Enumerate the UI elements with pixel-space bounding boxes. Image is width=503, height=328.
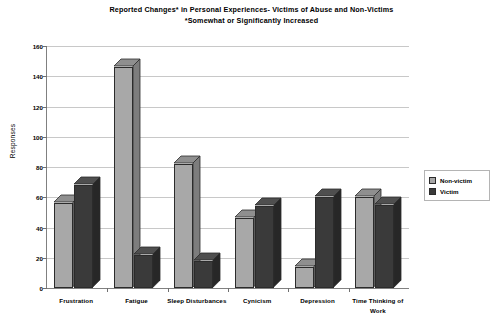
bar [255, 206, 274, 288]
y-axis-tick-label: 80 [36, 164, 43, 171]
bar-group [349, 46, 409, 288]
bar [375, 205, 394, 288]
x-axis-label: Sleep Disturbances [167, 296, 227, 306]
bar-group [47, 46, 107, 288]
legend-label-non-victim: Non-victim [440, 177, 472, 184]
bar-3d-shading [255, 198, 282, 288]
x-axis-label: Depression [287, 296, 347, 306]
y-axis-tick-label: 60 [36, 194, 43, 201]
bar-3d-shading [194, 253, 221, 288]
chart-legend: Non-victim Victim [424, 170, 490, 201]
bar [295, 267, 314, 288]
x-axis-tick-mark [349, 288, 350, 292]
x-axis-label: Cynicism [227, 296, 287, 306]
bar-3d-shading [315, 189, 342, 288]
bar-group [288, 46, 348, 288]
legend-label-victim: Victim [440, 188, 458, 195]
legend-swatch-victim [429, 188, 436, 195]
x-axis-tick-mark [288, 288, 289, 292]
bar [355, 197, 374, 288]
x-axis-label: Time Thinking of Work [348, 296, 408, 315]
y-axis-tick-mark [43, 288, 47, 289]
bar [235, 218, 254, 288]
x-axis-label: Frustration [46, 296, 106, 306]
y-axis-tick-label: 140 [33, 73, 43, 80]
y-axis-label: Responses [9, 106, 16, 176]
x-axis-tick-mark [168, 288, 169, 292]
y-axis-tick-label: 20 [36, 254, 43, 261]
bar [174, 164, 193, 288]
chart-subtitle: *Somewhat or Significantly Increased [0, 15, 503, 26]
bar [315, 197, 334, 288]
plot-area: 160140120100806040200 [46, 46, 409, 289]
x-axis-tick-mark [228, 288, 229, 292]
bar-3d-shading [134, 247, 161, 288]
legend-item-non-victim: Non-victim [429, 177, 486, 184]
bar [194, 261, 213, 288]
x-axis-label: Fatigue [106, 296, 166, 306]
y-axis-tick-label: 160 [33, 43, 43, 50]
bar [54, 203, 73, 288]
bar [134, 255, 153, 288]
bar-group [228, 46, 288, 288]
y-axis-tick-label: 100 [33, 133, 43, 140]
bar-groups [47, 46, 409, 288]
x-axis-tick-mark [107, 288, 108, 292]
bar-group [168, 46, 228, 288]
bar-3d-shading [375, 197, 402, 288]
y-axis-tick-label: 120 [33, 103, 43, 110]
bar-group [107, 46, 167, 288]
chart-title-block: Reported Changes* in Personal Experience… [0, 4, 503, 26]
bar-3d-shading [74, 177, 101, 288]
legend-item-victim: Victim [429, 188, 486, 195]
chart-container: Reported Changes* in Personal Experience… [0, 0, 503, 328]
bar [74, 185, 93, 288]
chart-title: Reported Changes* in Personal Experience… [0, 4, 503, 15]
legend-swatch-non-victim [429, 177, 436, 184]
bar [114, 67, 133, 288]
y-axis-tick-label: 0 [40, 285, 43, 292]
y-axis-tick-label: 40 [36, 224, 43, 231]
